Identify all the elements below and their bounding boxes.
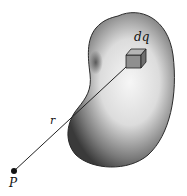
label-r: r: [50, 115, 55, 126]
point-p-dot: [11, 168, 17, 174]
charge-element-cube: [126, 49, 146, 68]
label-dq: dq: [134, 31, 149, 43]
charge-body: [68, 13, 174, 167]
body-shadow: [86, 48, 114, 96]
label-p: P: [9, 177, 17, 189]
diagram-canvas: [0, 0, 187, 196]
